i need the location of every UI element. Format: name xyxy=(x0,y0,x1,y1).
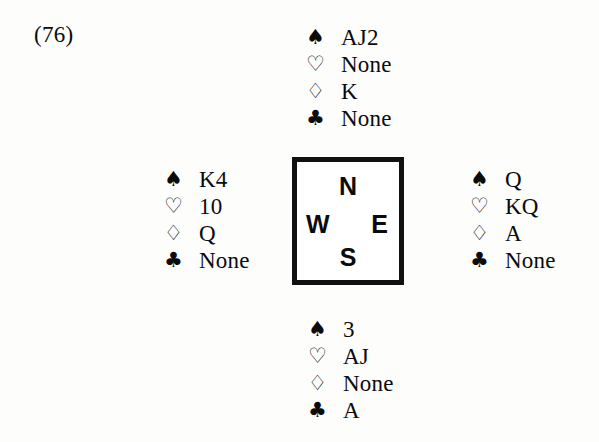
compass-north-label: N xyxy=(297,174,399,199)
compass-east-label: E xyxy=(371,212,388,237)
spade-icon: ♠ xyxy=(164,166,186,193)
club-icon: ♣ xyxy=(164,247,186,274)
diamond-icon: ♢ xyxy=(308,370,330,397)
east-spades: Q xyxy=(505,166,556,193)
compass-west-label: W xyxy=(306,212,330,237)
diamond-icon: ♢ xyxy=(306,78,328,105)
spade-icon: ♠ xyxy=(470,166,492,193)
hand-west: ♠ K4 ♡ 10 ♢ Q ♣ None xyxy=(164,166,250,274)
compass-box: N W E S xyxy=(292,157,404,285)
heart-icon: ♡ xyxy=(470,193,492,220)
spade-icon: ♠ xyxy=(308,316,330,343)
north-diamonds: K xyxy=(341,78,392,105)
south-diamonds: None xyxy=(343,370,394,397)
club-icon: ♣ xyxy=(306,105,328,132)
club-icon: ♣ xyxy=(308,397,330,424)
north-clubs: None xyxy=(341,105,392,132)
east-hearts: KQ xyxy=(505,193,556,220)
bridge-deal-diagram: (76) ♠ AJ2 ♡ None ♢ K ♣ None ♠ K4 ♡ 10 ♢ xyxy=(0,0,599,442)
north-spades: AJ2 xyxy=(341,24,392,51)
west-hearts: 10 xyxy=(199,193,250,220)
spade-icon: ♠ xyxy=(306,24,328,51)
club-icon: ♣ xyxy=(470,247,492,274)
west-diamonds: Q xyxy=(199,220,250,247)
west-spades: K4 xyxy=(199,166,250,193)
heart-icon: ♡ xyxy=(306,51,328,78)
compass-south-label: S xyxy=(297,245,399,270)
deal-number-label: (76) xyxy=(34,21,74,49)
hand-north: ♠ AJ2 ♡ None ♢ K ♣ None xyxy=(306,24,392,132)
diamond-icon: ♢ xyxy=(470,220,492,247)
hand-south: ♠ 3 ♡ AJ ♢ None ♣ A xyxy=(308,316,394,424)
west-clubs: None xyxy=(199,247,250,274)
heart-icon: ♡ xyxy=(164,193,186,220)
north-hearts: None xyxy=(341,51,392,78)
east-clubs: None xyxy=(505,247,556,274)
heart-icon: ♡ xyxy=(308,343,330,370)
diamond-icon: ♢ xyxy=(164,220,186,247)
south-spades: 3 xyxy=(343,316,394,343)
east-diamonds: A xyxy=(505,220,556,247)
south-clubs: A xyxy=(343,397,394,424)
hand-east: ♠ Q ♡ KQ ♢ A ♣ None xyxy=(470,166,556,274)
south-hearts: AJ xyxy=(343,343,394,370)
